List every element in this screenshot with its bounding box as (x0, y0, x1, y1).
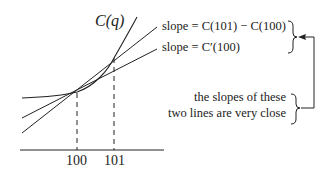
arrowhead-icon (298, 34, 306, 40)
x-tick-101: 101 (104, 154, 125, 167)
cost-curve (22, 17, 137, 98)
x-tick-100: 100 (66, 154, 87, 167)
lower-brace-icon (291, 94, 300, 124)
annotation-line-2: two lines are very close (168, 107, 286, 120)
curve-label: C(q) (95, 13, 124, 29)
tangent-line (22, 49, 157, 118)
upper-brace-icon (288, 21, 297, 53)
secant-line (22, 27, 157, 133)
secant-slope-label: slope = C(101) − C(100) (162, 20, 286, 33)
tangent-slope-label: slope = C′(100) (162, 41, 240, 54)
connector-line (301, 37, 314, 108)
annotation-line-1: the slopes of these (194, 91, 286, 104)
